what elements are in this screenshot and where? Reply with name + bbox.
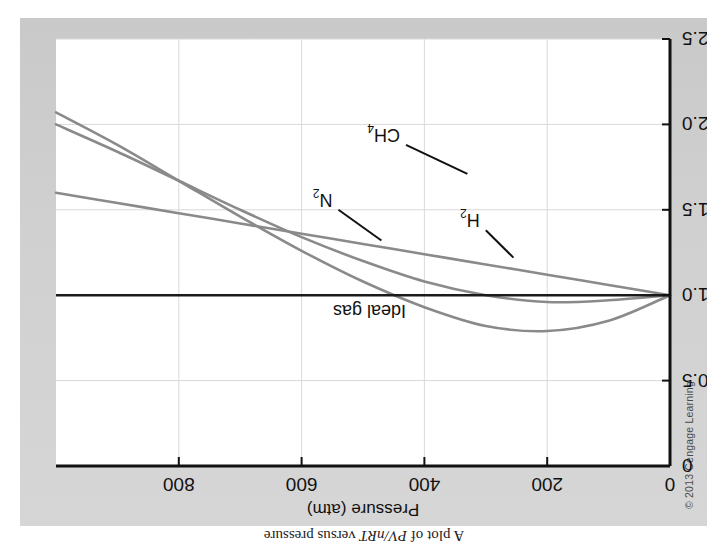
caption-formula: PV/nRT xyxy=(360,528,408,544)
x-tick-label: 800 xyxy=(163,474,195,495)
pv-nrt-vs-pressure-chart: CH4N2H2Ideal gas0200400600800Pressure (a… xyxy=(20,18,707,526)
figure-page: A plot of PV/nRT versus pressure © 2013 … xyxy=(0,0,728,544)
caption-prefix: A plot of xyxy=(407,528,464,544)
y-tick-label: 1.0 xyxy=(682,284,707,305)
plot-background xyxy=(56,39,670,466)
ideal-gas-label: Ideal gas xyxy=(333,301,406,321)
y-tick-label: 1.5 xyxy=(682,199,707,220)
x-axis-title: Pressure (atm) xyxy=(307,500,419,519)
x-tick-label: 200 xyxy=(531,474,563,495)
y-tick-label: 2.5 xyxy=(682,28,707,49)
rotated-figure-container: A plot of PV/nRT versus pressure © 2013 … xyxy=(0,0,728,544)
x-tick-label: 0 xyxy=(665,474,676,495)
y-tick-label: 2.0 xyxy=(682,113,707,134)
y-tick-label: 0.5 xyxy=(682,370,707,391)
figure-caption: A plot of PV/nRT versus pressure xyxy=(0,527,728,544)
caption-suffix: versus pressure xyxy=(264,528,360,544)
x-tick-label: 400 xyxy=(409,474,441,495)
y-tick-label: 0 xyxy=(682,455,693,476)
x-tick-label: 600 xyxy=(286,474,318,495)
